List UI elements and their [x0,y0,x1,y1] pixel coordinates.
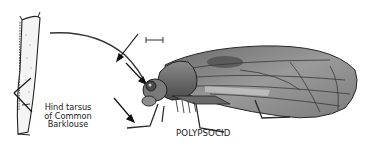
scale-bar [146,37,163,43]
species-label: POLYPSOCID [176,129,230,138]
head [142,79,167,106]
illustration-canvas: Hind tarsus of Common Barklouse POLYPSOC… [0,0,372,152]
annotation-arrows [114,34,146,122]
inset-caption: Hind tarsus of Common Barklouse [43,103,93,129]
inset-caption-line-3: Barklouse [43,120,93,129]
hind-tarsus-inset [17,12,40,135]
